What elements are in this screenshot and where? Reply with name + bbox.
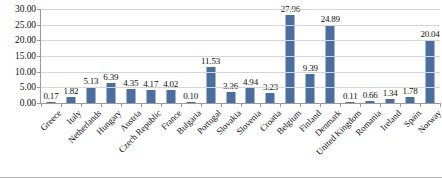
bar[interactable] <box>246 88 255 103</box>
gridline <box>41 25 440 26</box>
bar-value-label: 24.89 <box>321 14 340 24</box>
gridline <box>41 40 440 41</box>
bar-value-label: 6.39 <box>103 72 118 82</box>
y-axis: 0.005.0010.0015.0020.0025.0030.00 <box>0 0 40 108</box>
y-axis-tick-label: 30.00 <box>15 4 36 14</box>
x-axis-category-label: Greece <box>38 108 63 133</box>
bar[interactable] <box>106 83 115 103</box>
y-axis-tick-mark <box>37 25 41 26</box>
bar[interactable] <box>66 97 75 103</box>
gridline <box>41 56 440 57</box>
y-axis-tick-label: 10.00 <box>15 67 36 77</box>
bar[interactable] <box>146 90 155 103</box>
bar[interactable] <box>286 15 295 103</box>
gridline <box>41 9 440 10</box>
y-axis-tick-label: 0.00 <box>20 98 36 108</box>
bar[interactable] <box>186 102 195 103</box>
bar-value-label: 0.66 <box>363 90 378 100</box>
bar[interactable] <box>346 102 355 103</box>
gridline <box>41 72 440 73</box>
bar-value-label: 0.17 <box>43 91 58 101</box>
bar-value-label: 4.94 <box>243 77 258 87</box>
bar-value-label: 0.11 <box>343 91 358 101</box>
y-axis-tick-label: 5.00 <box>20 82 36 92</box>
y-axis-tick-label: 15.00 <box>15 51 36 61</box>
bar[interactable] <box>166 90 175 103</box>
y-axis-tick-label: 20.00 <box>15 35 36 45</box>
x-axis-category-labels: GreeceItalyNetherlandsHungaryAustriaCzec… <box>40 104 440 178</box>
bar[interactable] <box>326 25 335 103</box>
bar-chart: 0.005.0010.0015.0020.0025.0030.00 0.171.… <box>0 0 442 178</box>
plot-area: 0.171.825.136.394.354.174.020.1011.533.3… <box>40 9 440 104</box>
bar-value-label: 0.10 <box>183 91 198 101</box>
bar-value-label: 5.13 <box>83 76 98 86</box>
bar-value-label: 20.04 <box>420 29 439 39</box>
y-axis-tick-mark <box>37 72 41 73</box>
y-axis-tick-mark <box>37 40 41 41</box>
bar[interactable] <box>46 102 55 103</box>
bar[interactable] <box>406 97 415 103</box>
y-axis-tick-mark <box>37 56 41 57</box>
gridline <box>41 87 440 88</box>
y-axis-tick-label: 25.00 <box>15 20 36 30</box>
y-axis-tick-mark <box>37 9 41 10</box>
x-axis-tick-mark <box>440 103 441 107</box>
bar[interactable] <box>86 87 95 103</box>
bar[interactable] <box>366 101 375 103</box>
bar[interactable] <box>386 99 395 103</box>
bar[interactable] <box>126 89 135 103</box>
bar-value-label: 1.34 <box>383 88 398 98</box>
y-axis-tick-mark <box>37 87 41 88</box>
bar[interactable] <box>266 93 275 103</box>
bar-value-label: 11.53 <box>201 56 220 66</box>
x-axis-category-label: Ireland <box>378 108 403 133</box>
bar[interactable] <box>226 92 235 103</box>
